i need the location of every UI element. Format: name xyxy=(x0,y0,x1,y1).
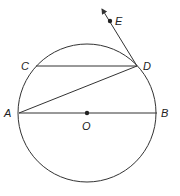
point-o-dot xyxy=(85,111,89,115)
geometry-diagram: A B C D E O xyxy=(0,0,180,196)
label-c: C xyxy=(21,60,29,72)
label-b: B xyxy=(161,107,168,119)
chord-ad xyxy=(19,66,137,113)
point-e-dot xyxy=(108,19,112,23)
label-o: O xyxy=(82,120,91,132)
label-a: A xyxy=(3,107,11,119)
label-d: D xyxy=(143,60,151,72)
label-e: E xyxy=(115,15,123,27)
